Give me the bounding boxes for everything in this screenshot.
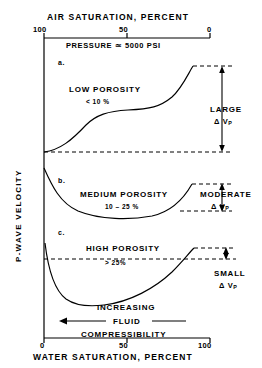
panel-c-delta-arrow: [223, 247, 229, 260]
bottom-axis: [44, 338, 210, 343]
chart-canvas: [0, 0, 262, 368]
trend-arrow-icon: [59, 318, 186, 325]
curve-medium-porosity: [44, 168, 192, 219]
curve-low-porosity: [44, 66, 193, 152]
panel-a-delta-arrow: [219, 66, 225, 152]
panel-b-delta-arrow: [219, 183, 225, 212]
top-axis: [44, 33, 210, 38]
curve-high-porosity: [45, 243, 194, 306]
figure-root: AIR SATURATION, PERCENT 100 50 0 P-WAVE …: [0, 0, 262, 368]
